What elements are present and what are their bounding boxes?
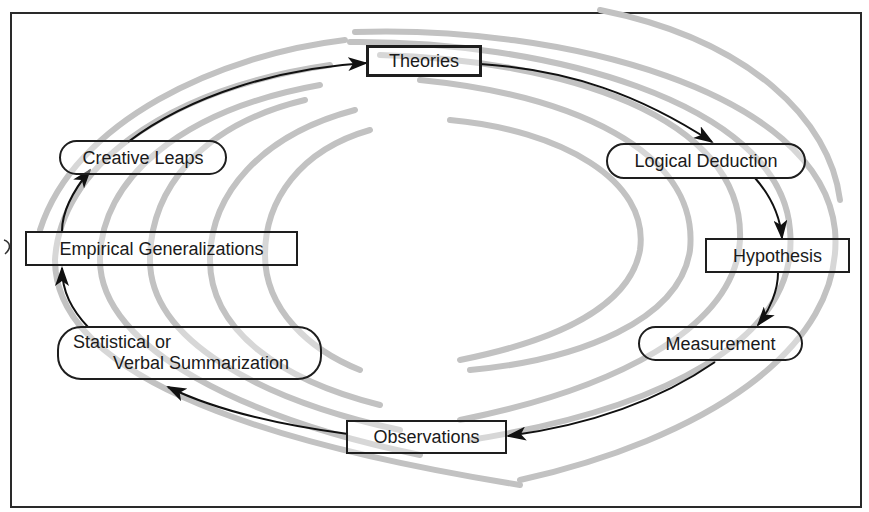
node-label: Logical Deduction bbox=[634, 151, 777, 171]
node-label-line2: Verbal Summarization bbox=[73, 353, 308, 374]
node-measurement: Measurement bbox=[638, 326, 803, 361]
node-observations: Observations bbox=[346, 420, 507, 454]
node-label: Hypothesis bbox=[733, 246, 822, 266]
node-statistical-summarization: Statistical or Verbal Summarization bbox=[57, 326, 322, 380]
node-label: Empirical Generalizations bbox=[59, 239, 263, 259]
node-hypothesis: Hypothesis bbox=[705, 238, 850, 273]
node-label: Creative Leaps bbox=[82, 148, 203, 168]
node-theories: Theories bbox=[366, 45, 482, 77]
left-edge-tick bbox=[4, 240, 9, 254]
node-empirical-generalizations: Empirical Generalizations bbox=[25, 231, 298, 266]
node-label: Observations bbox=[373, 427, 479, 447]
node-logical-deduction: Logical Deduction bbox=[606, 143, 806, 179]
node-label: Theories bbox=[389, 51, 459, 71]
node-label-line1: Statistical or bbox=[73, 332, 171, 352]
node-creative-leaps: Creative Leaps bbox=[59, 140, 227, 175]
node-label: Measurement bbox=[665, 334, 775, 354]
